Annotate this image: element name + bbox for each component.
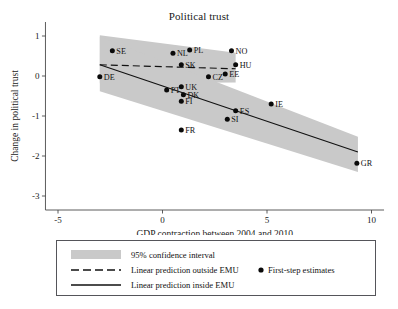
y-axis-title: Change in political trust: [10, 70, 20, 162]
data-point-sk: [179, 62, 184, 67]
data-point-label-hu: HU: [240, 61, 252, 70]
data-point-label-cz: CZ: [212, 73, 222, 82]
data-point-fr: [179, 128, 184, 133]
data-point-label-nl: NL: [177, 49, 188, 58]
y-tick-label: -2: [32, 151, 40, 161]
y-tick-label: 1: [35, 31, 40, 41]
data-point-gr: [354, 161, 359, 166]
data-point-pl: [187, 48, 192, 53]
x-axis-title: GDP contraction between 2004 and 2010: [136, 229, 293, 235]
legend-label-confidence-interval: 95% confidence interval: [131, 250, 216, 260]
chart-figure: Political trust 10-1-2-3-50510 SEDENLPLN…: [0, 0, 398, 309]
legend-label-outside-emu: Linear prediction outside EMU: [131, 265, 239, 275]
data-point-no: [229, 48, 234, 53]
data-point-es: [233, 108, 238, 113]
confidence-bands: [100, 35, 358, 172]
data-point-label-ie: IE: [275, 100, 283, 109]
data-point-ee: [223, 72, 228, 77]
data-point-label-sk: SK: [185, 61, 196, 70]
legend-swatch-confidence-band: [71, 250, 121, 259]
data-point-fi: [179, 99, 184, 104]
data-point-nl: [170, 51, 175, 56]
data-point-label-se: SE: [116, 47, 126, 56]
data-point-label-ee: EE: [229, 70, 239, 79]
data-point-label-no: NO: [235, 47, 247, 56]
data-point-se: [110, 48, 115, 53]
y-tick-label: -3: [32, 191, 40, 201]
y-tick-label: 0: [35, 71, 40, 81]
data-point-uk: [179, 84, 184, 89]
data-point-label-de: DE: [104, 73, 115, 82]
x-tick-label: 0: [160, 215, 165, 225]
data-point-si: [225, 117, 230, 122]
legend-marker-dot: [258, 267, 263, 272]
data-point-label-si: SI: [231, 115, 239, 124]
data-point-label-es: ES: [240, 107, 250, 116]
data-point-de: [97, 74, 102, 79]
scatter-plot: 10-1-2-3-50510 SEDENLPLNOSKHUCZEEPTUKDKF…: [0, 0, 398, 235]
x-tick-label: -5: [54, 215, 62, 225]
legend-label-inside-emu: Linear prediction inside EMU: [131, 280, 235, 290]
data-point-hu: [233, 62, 238, 67]
legend-label-first-step-estimates: First-step estimates: [268, 265, 335, 275]
data-point-label-gr: GR: [361, 159, 373, 168]
data-point-label-fi: FI: [185, 97, 193, 106]
data-point-pt: [164, 88, 169, 93]
y-tick-label: -1: [32, 111, 40, 121]
legend-content: 95% confidence intervalLinear prediction…: [57, 241, 377, 297]
chart-legend: 95% confidence intervalLinear prediction…: [56, 240, 376, 296]
data-point-cz: [206, 74, 211, 79]
data-point-label-pl: PL: [194, 46, 204, 55]
x-tick-label: 10: [367, 215, 377, 225]
data-point-label-fr: FR: [185, 126, 196, 135]
data-point-label-pt: PT: [171, 86, 181, 95]
x-tick-label: 5: [265, 215, 270, 225]
data-point-ie: [269, 102, 274, 107]
